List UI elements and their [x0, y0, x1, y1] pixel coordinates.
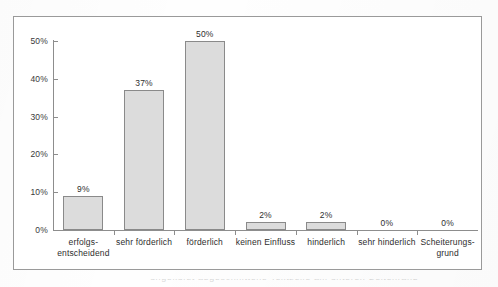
y-axis-tick [54, 117, 58, 118]
category-label-line: Scheiterungs- [411, 237, 484, 248]
y-axis-tick [54, 154, 58, 155]
scan-artifact-text: ungekürzt abgeschnittene Textzeile am un… [0, 279, 498, 282]
bar-value-label: 9% [53, 184, 114, 194]
bar-value-label: 0% [417, 218, 478, 228]
y-axis-tick-label: 50% [14, 36, 48, 46]
bar [246, 222, 286, 230]
y-axis-tick-label-text: 40% [14, 74, 48, 84]
x-axis-tick [417, 231, 418, 235]
y-axis-tick [54, 79, 58, 80]
y-axis-tick-label: 10% [14, 187, 48, 197]
figure-frame [13, 16, 482, 270]
bar-value-label: 50% [174, 29, 235, 39]
bar-value-label: 2% [235, 210, 296, 220]
y-axis-tick [54, 230, 58, 231]
bar-value-label: 37% [114, 78, 175, 88]
bar [124, 90, 164, 230]
y-axis-line [53, 40, 54, 231]
y-axis-tick-label: 0% [14, 225, 48, 235]
x-axis-tick [174, 231, 175, 235]
y-axis-tick-label-text: 50% [14, 36, 48, 46]
y-axis-tick-label-text: 20% [14, 149, 48, 159]
x-axis-tick [296, 231, 297, 235]
y-axis-tick-label-text: 30% [14, 112, 48, 122]
bar [63, 196, 103, 230]
x-axis-line [53, 230, 478, 231]
bar [185, 41, 225, 230]
y-axis-tick-label: 30% [14, 112, 48, 122]
x-axis-tick [357, 231, 358, 235]
x-axis-tick [114, 231, 115, 235]
y-axis-tick-label-text: 10% [14, 187, 48, 197]
page-bottom-scan-artifact: ungekürzt abgeschnittene Textzeile am un… [0, 279, 498, 287]
scanned-page: 0%10%20%30%40%50% 9%37%50%2%2%0%0% erfol… [0, 0, 498, 287]
category-label-line: grund [411, 248, 484, 259]
y-axis-tick-label: 40% [14, 74, 48, 84]
bar [306, 222, 346, 230]
x-axis-tick [235, 231, 236, 235]
category-label-line: entscheidend [47, 248, 120, 259]
bar-value-label: 2% [296, 210, 357, 220]
y-axis-tick-label: 20% [14, 149, 48, 159]
bar-value-label: 0% [357, 218, 418, 228]
y-axis-tick [54, 41, 58, 42]
x-axis-category-label: Scheiterungs-grund [411, 237, 484, 259]
y-axis-tick-label-text: 0% [14, 225, 48, 235]
